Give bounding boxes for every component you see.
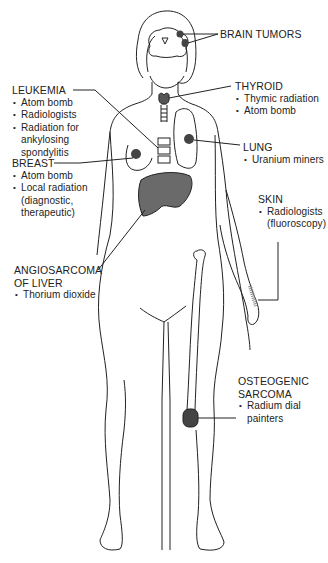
leukemia-cause: Atom bomb bbox=[12, 97, 79, 110]
liver-cause: Thorium dioxide bbox=[14, 289, 102, 302]
brain-tumor-lower bbox=[182, 39, 189, 47]
brain-tumors-label: BRAIN TUMORS bbox=[220, 28, 302, 41]
leukemia-cause: Radiologists bbox=[12, 109, 79, 122]
femur bbox=[187, 250, 205, 410]
leukemia-title: LEUKEMIA bbox=[12, 84, 79, 97]
bone-title-line2: SARCOMA bbox=[238, 388, 309, 401]
breast-tumor bbox=[131, 149, 141, 159]
breast-cause: Local radiation (diagnostic, therapeutic… bbox=[12, 182, 88, 220]
thyroid-gland bbox=[159, 93, 169, 104]
skin-label: SKIN Radiologists (fluoroscopy) bbox=[258, 193, 326, 231]
thyroid-cause: Thymic radiation bbox=[235, 93, 319, 106]
bone-tumor bbox=[183, 409, 198, 427]
breast-title: BREAST bbox=[12, 157, 88, 170]
leukemia-leader bbox=[73, 90, 158, 148]
trachea bbox=[161, 105, 167, 122]
brain-tumor-upper bbox=[177, 31, 184, 38]
brain-ventricle bbox=[162, 38, 168, 44]
skin-exposure-shading bbox=[250, 286, 256, 306]
vertebra-1 bbox=[158, 138, 170, 145]
thyroid-label: THYROID Thymic radiation Atom bomb bbox=[235, 80, 319, 118]
leukemia-cause: Radiation for ankylosing spondylitis bbox=[12, 122, 79, 160]
vertebra-3 bbox=[158, 156, 170, 163]
liver-label: ANGIOSARCOMA OF LIVER Thorium dioxide bbox=[14, 264, 102, 302]
lung-label: LUNG Uranium miners bbox=[243, 141, 324, 166]
torso-right bbox=[196, 135, 224, 550]
liver-title-line1: ANGIOSARCOMA bbox=[14, 264, 102, 277]
breast-cause: Atom bomb bbox=[12, 170, 88, 183]
thyroid-cause: Atom bomb bbox=[235, 105, 319, 118]
bone-cause: Radium dial painters bbox=[238, 400, 309, 425]
liver-title-line2: OF LIVER bbox=[14, 277, 102, 290]
face-outline bbox=[147, 36, 188, 88]
liver bbox=[139, 173, 192, 216]
inner-legs bbox=[140, 306, 186, 550]
right-arm bbox=[220, 190, 259, 325]
torso-left bbox=[98, 132, 125, 550]
leukemia-label: LEUKEMIA Atom bomb Radiologists Radiatio… bbox=[12, 84, 79, 159]
liver-leader bbox=[98, 210, 145, 270]
lung-tumor bbox=[184, 134, 194, 144]
lung-title: LUNG bbox=[243, 141, 324, 154]
bone-title-line1: OSTEOGENIC bbox=[238, 375, 309, 388]
vertebra-2 bbox=[158, 147, 170, 154]
lung-leader bbox=[194, 140, 240, 145]
skin-leader bbox=[258, 242, 278, 300]
thyroid-title: THYROID bbox=[235, 80, 319, 93]
skin-title: SKIN bbox=[258, 193, 326, 206]
lung-cause: Uranium miners bbox=[243, 154, 324, 167]
skin-cause: Radiologists (fluoroscopy) bbox=[258, 206, 326, 231]
brain-tumors-title: BRAIN TUMORS bbox=[220, 28, 302, 41]
breast-label: BREAST Atom bomb Local radiation (diagno… bbox=[12, 157, 88, 220]
osteogenic-sarcoma-label: OSTEOGENIC SARCOMA Radium dial painters bbox=[238, 375, 309, 425]
